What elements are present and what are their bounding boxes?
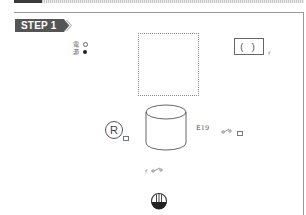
diagram-svg bbox=[0, 0, 306, 215]
cylinder-label: E19 bbox=[196, 124, 209, 132]
switch-icon bbox=[222, 129, 231, 133]
tick-mark: ｨ bbox=[144, 165, 147, 175]
cylinder-icon bbox=[146, 105, 186, 150]
small-square-icon bbox=[237, 131, 243, 136]
switch-icon bbox=[152, 168, 162, 172]
r-symbol-label: R bbox=[110, 124, 118, 136]
small-square-icon bbox=[123, 136, 129, 141]
half-filled-circle-icon bbox=[152, 194, 167, 210]
